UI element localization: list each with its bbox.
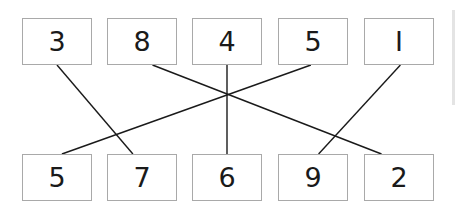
bottom-box-4: 9 <box>278 154 348 201</box>
connection-line-3-to-7 <box>57 65 133 154</box>
top-box-4: 5 <box>278 18 348 65</box>
bottom-box-3: 6 <box>192 154 262 201</box>
matching-diagram: 3 8 4 5 I 5 7 6 9 2 <box>0 0 455 222</box>
top-box-1: 3 <box>22 18 92 65</box>
bottom-box-5: 2 <box>364 154 434 201</box>
bottom-box-1: 5 <box>22 154 92 201</box>
top-box-3: 4 <box>192 18 262 65</box>
connection-line-1-to-9 <box>319 65 401 154</box>
top-box-5: I <box>364 18 434 65</box>
bottom-box-2: 7 <box>107 154 177 201</box>
top-box-2: 8 <box>107 18 177 65</box>
